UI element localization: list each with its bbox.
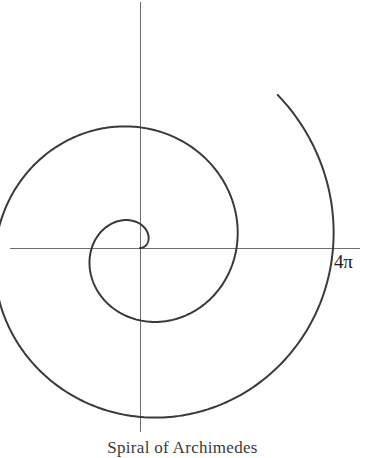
figure-caption: Spiral of Archimedes [0, 438, 365, 458]
archimedean-spiral-curve [0, 95, 334, 418]
axis-tick-label-4pi: 4π [334, 252, 353, 271]
